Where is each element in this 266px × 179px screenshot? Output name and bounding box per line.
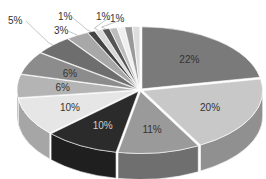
slice-label: 3% [54,25,69,36]
slice-label: 10% [93,120,113,131]
slice-label: 6% [56,82,71,93]
slice-label: 11% [142,124,161,135]
pie-top [17,27,263,154]
slice-label: 10% [60,102,80,113]
pie-slice [142,27,260,89]
slice-label: 1% [58,11,73,22]
slice-label: 1% [96,11,111,22]
slice-label: 5% [8,15,23,26]
slice-label: 22% [179,54,199,65]
slice-label: 20% [200,102,220,113]
leader-line [68,31,77,35]
slice-label: 6% [63,68,78,79]
leader-line [72,17,91,32]
leader-line [26,21,53,45]
pie-chart: 22%20%11%10%10%6%6%5%3%1%1%1% [0,0,266,179]
slice-label: 1% [110,13,125,24]
